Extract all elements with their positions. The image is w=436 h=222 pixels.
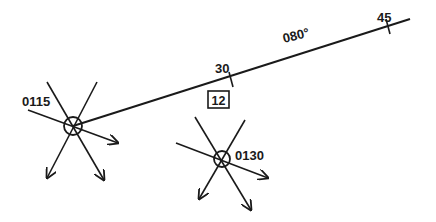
speed-box: 12 (208, 91, 229, 108)
fix-0130 (176, 117, 268, 210)
fix-time-0115: 0115 (22, 94, 50, 109)
tick-30 (229, 72, 233, 87)
tick-label-30: 30 (215, 61, 229, 76)
diagram-svg: 30 45 080° 12 0115 0130 (0, 0, 436, 222)
course-label: 080° (281, 25, 311, 46)
course-line (73, 19, 410, 126)
speed-value: 12 (212, 94, 226, 108)
fix-time-0130: 0130 (235, 148, 264, 163)
diagram-canvas: 30 45 080° 12 0115 0130 (0, 0, 436, 222)
tick-label-45: 45 (377, 10, 391, 25)
